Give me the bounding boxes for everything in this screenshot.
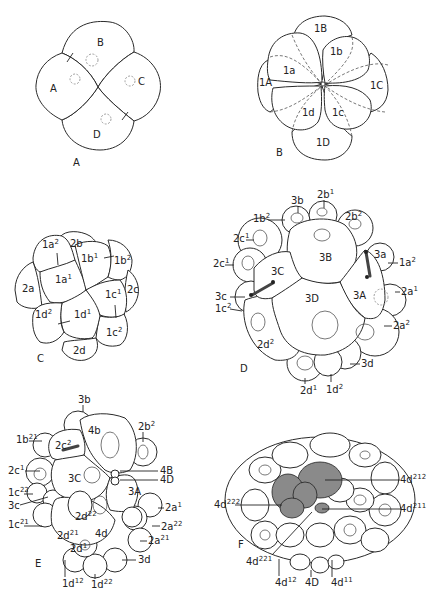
label-2b2: 2b2: [138, 420, 155, 432]
centrosome: [249, 293, 253, 297]
label-3A: 3A: [128, 486, 141, 497]
label-2c: 2c: [127, 284, 139, 295]
cleavage-figure: B A C D A 1B 1b 1a 1A 1C 1d 1c 1D B: [0, 0, 431, 590]
label-4b: 4b: [88, 425, 101, 436]
label-D: D: [93, 129, 101, 140]
label-4d12: 4d12: [275, 576, 297, 588]
cell-4d211: [315, 503, 329, 513]
cell: [310, 433, 350, 457]
label-1d2: 1d2: [326, 383, 343, 395]
label-1c22: 1c22: [8, 486, 29, 498]
label-4D: 4D: [305, 577, 319, 588]
label-2c1: 2c1: [8, 464, 24, 476]
cell-4D: [311, 557, 329, 573]
cell: [349, 443, 381, 467]
label-3c: 3c: [215, 291, 227, 302]
label-1a2: 1a2: [399, 256, 416, 268]
label-1c2: 1c2: [215, 302, 231, 314]
label-1b: 1b: [330, 46, 343, 57]
label-1B: 1B: [314, 23, 327, 34]
cell: [290, 554, 310, 570]
label-1A: 1A: [259, 77, 272, 88]
cell-1b: [323, 37, 370, 84]
label-2a1: 2a1: [165, 501, 182, 513]
label-3C: 3C: [271, 266, 284, 277]
panel-caption-b: B: [276, 147, 283, 158]
label-3A: 3A: [353, 290, 366, 301]
label-1d: 1d: [302, 107, 315, 118]
cell: [272, 442, 308, 468]
panel-caption-f: F: [238, 539, 244, 550]
label-A: A: [50, 83, 57, 94]
panel-caption-c: C: [37, 353, 44, 364]
cell: [306, 523, 334, 547]
label-3b: 3b: [78, 394, 91, 405]
cell: [328, 555, 344, 569]
cell-2c1: [26, 458, 54, 486]
cell-4d221: [280, 498, 304, 518]
label-1D: 1D: [316, 137, 330, 148]
panel-caption-a: A: [73, 157, 80, 168]
label-2a: 2a: [22, 283, 35, 294]
cell-4D: [111, 477, 119, 485]
label-3d: 3d: [361, 358, 374, 369]
label-4d212: 4d212: [400, 473, 426, 485]
centrosome: [364, 250, 368, 254]
label-3B: 3B: [319, 252, 332, 263]
label-2a22: 2a22: [161, 520, 182, 532]
panel-caption-d: D: [240, 363, 248, 374]
panel-caption-e: E: [35, 558, 41, 569]
cell-2a22-nuc: [122, 507, 142, 527]
label-3b: 3b: [291, 195, 304, 206]
label-4D: 4D: [160, 474, 174, 485]
label-1d22: 1d22: [91, 578, 113, 590]
panel-a: B A C D A: [36, 21, 161, 168]
label-B: B: [97, 37, 104, 48]
label-3c: 3c: [8, 500, 20, 511]
label-2b1: 2b1: [317, 188, 334, 200]
label-2d1: 2d1: [300, 384, 317, 396]
panel-f: 4d212 4d222 4d211 4d221 4d12 4D 4d11 F: [214, 433, 426, 588]
label-1c21: 1c21: [8, 518, 29, 530]
panel-e: 4b 3C 3A 4d 3b 1b21 2c2 2b2 2c1 4B 4D 1c…: [8, 394, 182, 590]
label-C: C: [138, 76, 145, 87]
label-4d221: 4d221: [246, 555, 272, 567]
label-1c: 1c: [332, 107, 344, 118]
panel-d: 3B 3C 3D 3A 3b 2b1 2b2 1b2 2c1 2c1 3a 1a…: [213, 188, 418, 396]
label-4d: 4d: [95, 528, 108, 539]
centrosome: [271, 280, 275, 284]
panel-b: 1B 1b 1a 1A 1C 1d 1c 1D B: [258, 16, 388, 160]
pole-mark: [321, 82, 325, 86]
label-1d12: 1d12: [62, 577, 84, 589]
label-2a1: 2a1: [401, 285, 418, 297]
label-3a: 3a: [374, 249, 387, 260]
label-1a: 1a: [283, 65, 296, 76]
label-2a21: 2a21: [148, 534, 169, 546]
label-2b: 2b: [70, 238, 83, 249]
label-1C: 1C: [370, 80, 383, 91]
label-4d11: 4d11: [331, 576, 353, 588]
label-3D: 3D: [305, 293, 319, 304]
panel-c: 2b 1a2 1b1 1b2 1a1 2a 2c 1c1 1d1 1d2 1c2…: [15, 232, 139, 364]
cell: [251, 521, 279, 549]
label-2c1-lower: 2c1: [213, 257, 229, 269]
label-2d: 2d: [73, 345, 86, 356]
label-2a2: 2a2: [393, 319, 410, 331]
centrosome: [365, 275, 369, 279]
cell: [361, 528, 389, 552]
cell: [371, 462, 399, 494]
label-3d: 3d: [138, 554, 151, 565]
label-3C: 3C: [68, 473, 81, 484]
